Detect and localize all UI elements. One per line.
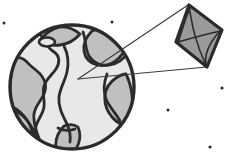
- earth-globe: [10, 25, 134, 150]
- speck-upper-mid: [111, 21, 114, 24]
- speck-right-mid: [220, 86, 223, 89]
- speck-lower-right: [208, 145, 211, 148]
- speck-upper-left: [3, 22, 6, 25]
- lake-ring: [39, 38, 55, 47]
- scene-svg: [0, 0, 227, 157]
- speck-lower-mid: [167, 109, 170, 112]
- illustration-canvas: [0, 0, 227, 157]
